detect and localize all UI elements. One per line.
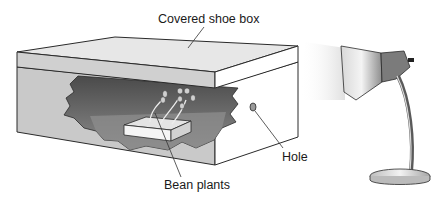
label-bean-plants: Bean plants (164, 178, 230, 192)
lamp-switch (408, 58, 414, 62)
diagram: Covered shoe box Bean plants Hole (0, 0, 448, 201)
bean-leaf (180, 103, 185, 109)
lamp-base-edge (370, 176, 430, 185)
diagram-canvas (0, 0, 448, 201)
lamp (341, 46, 430, 185)
lamp-shade (341, 46, 382, 100)
label-covered-shoe-box: Covered shoe box (158, 12, 259, 26)
bean-leaf (178, 96, 183, 102)
light-beam (300, 42, 345, 100)
bean-leaf (184, 88, 190, 94)
label-hole: Hole (282, 150, 308, 164)
hole (250, 103, 256, 111)
bean-leaf (177, 88, 183, 94)
bean-leaf (191, 95, 196, 101)
lamp-socket (381, 51, 410, 82)
bean-leaf (161, 97, 166, 103)
bean-leaf (163, 91, 168, 98)
